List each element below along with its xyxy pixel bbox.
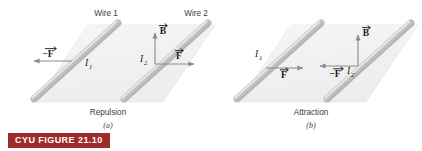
panel-b-current-1-label: I 1 [254,49,262,61]
figure-container: Wire 1 Wire 2 −F I 1 B [0,0,422,151]
panel-a-wire-2-label: Wire 2 [184,9,208,18]
panel-b-letter: (b) [306,121,316,130]
svg-text:1: 1 [89,63,92,70]
figure-number-badge: CYU FIGURE 21.10 [8,133,110,148]
physics-diagram: Wire 1 Wire 2 −F I 1 B [0,0,422,151]
svg-text:−F: −F [42,49,53,59]
svg-text:1: 1 [259,54,262,61]
svg-text:−F: −F [329,69,340,79]
panel-b-b-field-label: B [362,26,370,38]
svg-text:B: B [363,28,370,38]
panel-a-caption: Repulsion [90,108,127,117]
panel-a-b-field-label: B [159,24,167,36]
panel-a-force-minus-f-label: −F [42,47,56,59]
svg-text:B: B [160,26,167,36]
panel-a-wire-1-label: Wire 1 [94,9,118,18]
figure-number-label: CYU FIGURE 21.10 [15,136,103,145]
panel-b-caption: Attraction [294,108,329,117]
panel-a: Wire 1 Wire 2 −F I 1 B [32,9,215,130]
panel-b: I 1 F −F [235,22,418,130]
panel-a-letter: (a) [103,121,113,130]
